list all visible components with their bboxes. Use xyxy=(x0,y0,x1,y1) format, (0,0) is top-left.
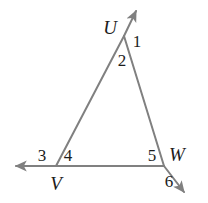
vertex-label-u: U xyxy=(103,18,117,37)
angle-label-4: 4 xyxy=(64,147,73,164)
vertex-label-w: W xyxy=(169,145,185,164)
vertex-label-v: V xyxy=(50,174,62,193)
angle-label-6: 6 xyxy=(165,173,174,190)
angle-label-2: 2 xyxy=(118,52,127,69)
geometry-figure: U V W 1 2 3 4 5 6 xyxy=(0,0,208,203)
angle-label-3: 3 xyxy=(38,147,47,164)
extension-rays xyxy=(16,11,184,192)
angle-label-1: 1 xyxy=(133,33,142,50)
segment-side-uw xyxy=(124,36,164,166)
angle-label-5: 5 xyxy=(148,147,157,164)
